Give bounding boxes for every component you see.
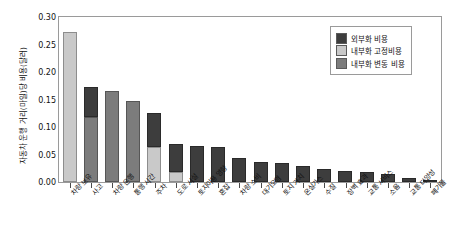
bar-segment bbox=[84, 87, 98, 117]
legend-item: 내부화 고정비용 bbox=[336, 45, 405, 56]
y-axis-tick-label: 0.00 bbox=[0, 178, 56, 187]
bar-column bbox=[84, 87, 98, 182]
bar-column bbox=[232, 158, 246, 182]
legend: 외부화 비용내부화 고정비용내부화 변동 비용 bbox=[330, 26, 412, 75]
y-axis-tick-label: 0.25 bbox=[0, 40, 56, 49]
legend-swatch-icon bbox=[336, 58, 347, 69]
bar-column bbox=[126, 101, 140, 182]
y-axis-tick-label: 0.30 bbox=[0, 13, 56, 22]
bar-chart: 자동차 운행 거리(마일)당 비용(달러) 0.300.250.200.150.… bbox=[0, 0, 452, 249]
bar-column bbox=[169, 144, 183, 182]
bar-segment bbox=[232, 158, 246, 182]
legend-label: 내부화 변동 비용 bbox=[351, 58, 405, 69]
y-axis-tick-label: 0.15 bbox=[0, 95, 56, 104]
bar-column bbox=[105, 91, 119, 182]
legend-label: 외부화 비용 bbox=[351, 33, 388, 44]
bar-segment bbox=[126, 101, 140, 182]
bar-segment bbox=[169, 144, 183, 172]
legend-label: 내부화 고정비용 bbox=[351, 45, 402, 56]
bar-segment bbox=[105, 91, 119, 182]
bar-segment bbox=[169, 172, 183, 182]
y-axis-tick-label: 0.20 bbox=[0, 68, 56, 77]
bar-segment bbox=[338, 171, 352, 182]
bar-segment bbox=[147, 113, 161, 147]
bar-column bbox=[63, 32, 77, 182]
legend-swatch-icon bbox=[336, 45, 347, 56]
bar-segment bbox=[63, 32, 77, 182]
legend-swatch-icon bbox=[336, 33, 347, 44]
y-axis-tick-label: 0.10 bbox=[0, 123, 56, 132]
legend-item: 외부화 비용 bbox=[336, 33, 405, 44]
legend-item: 내부화 변동 비용 bbox=[336, 58, 405, 69]
y-axis-tick-label: 0.05 bbox=[0, 150, 56, 159]
bar-column bbox=[338, 171, 352, 182]
